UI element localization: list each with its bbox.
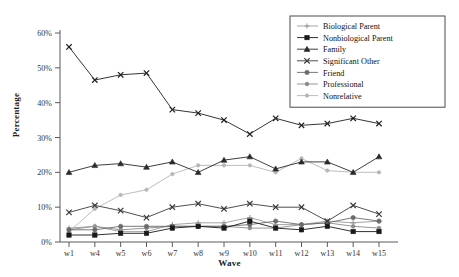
data-point-nonrelative bbox=[222, 164, 226, 168]
data-point-biological-parent bbox=[351, 220, 356, 225]
data-point-nonbiological-parent bbox=[144, 231, 148, 235]
y-tick-label: 60% bbox=[37, 29, 52, 38]
data-point-nonbiological-parent bbox=[67, 233, 71, 237]
x-tick-label: w12 bbox=[295, 249, 309, 258]
data-point-significant-other-top bbox=[221, 117, 226, 122]
legend-label-family[interactable]: Family bbox=[323, 45, 347, 54]
y-tick-label: 30% bbox=[37, 134, 52, 143]
data-point-nonbiological-parent bbox=[196, 224, 200, 228]
y-tick-label: 50% bbox=[37, 64, 52, 73]
data-point-nonrelative bbox=[171, 172, 175, 176]
data-point-significant-other bbox=[350, 203, 355, 208]
line-chart-plot: 0%10%20%30%40%50%60% w1w4w5w6w7w8w9w10w1… bbox=[0, 0, 459, 277]
data-point-nonrelative bbox=[196, 164, 200, 168]
data-point-significant-other bbox=[144, 215, 149, 220]
data-point-nonbiological-parent bbox=[325, 224, 329, 228]
data-point-family bbox=[376, 154, 382, 159]
x-tick-label: w8 bbox=[193, 249, 203, 258]
data-point-friend bbox=[299, 222, 303, 226]
y-tick-label: 0% bbox=[41, 238, 52, 247]
data-point-significant-other bbox=[376, 211, 381, 216]
x-tick-label: w10 bbox=[243, 249, 257, 258]
chart-legend: Biological ParentNonbiological ParentFam… bbox=[290, 16, 445, 107]
legend-label-nonrelative[interactable]: Nonrelative bbox=[323, 92, 362, 101]
data-point-friend bbox=[273, 219, 277, 223]
y-tick-label: 20% bbox=[37, 168, 52, 177]
data-point-nonbiological-parent bbox=[299, 228, 303, 232]
legend-label-significant-other[interactable]: Significant Other bbox=[323, 57, 380, 66]
data-point-significant-other bbox=[66, 210, 71, 215]
data-point-significant-other-top bbox=[66, 44, 71, 49]
data-point-family bbox=[195, 169, 201, 174]
chart-container: Percentage Wave 0%10%20%30%40%50%60% w1w… bbox=[0, 0, 459, 277]
data-point-nonbiological-parent bbox=[93, 233, 97, 237]
y-tick-label: 10% bbox=[37, 203, 52, 212]
legend-label-biological-parent[interactable]: Biological Parent bbox=[323, 22, 381, 31]
data-point-nonbiological-parent bbox=[118, 231, 122, 235]
legend-marker-professional bbox=[305, 82, 309, 86]
x-tick-label: w1 bbox=[64, 249, 74, 258]
data-point-friend bbox=[351, 215, 355, 219]
data-point-family bbox=[169, 159, 175, 164]
data-point-family bbox=[247, 154, 253, 159]
data-point-nonrelative bbox=[93, 207, 97, 211]
data-point-nonrelative bbox=[377, 171, 381, 175]
data-point-friend bbox=[67, 228, 71, 232]
data-point-nonrelative bbox=[145, 188, 149, 192]
x-tick-label: w7 bbox=[167, 249, 177, 258]
x-tick-label: w4 bbox=[90, 249, 100, 258]
legend-label-professional[interactable]: Professional bbox=[323, 80, 364, 89]
x-tick-label: w9 bbox=[219, 249, 229, 258]
legend-label-friend[interactable]: Friend bbox=[323, 69, 344, 78]
data-point-nonbiological-parent bbox=[351, 229, 355, 233]
x-tick-label: w13 bbox=[320, 249, 334, 258]
data-point-nonbiological-parent bbox=[170, 226, 174, 230]
data-point-nonbiological-parent bbox=[273, 226, 277, 230]
data-point-nonbiological-parent bbox=[222, 226, 226, 230]
data-point-friend bbox=[377, 219, 381, 223]
data-point-significant-other-top bbox=[247, 131, 252, 136]
data-point-friend bbox=[93, 228, 97, 232]
data-point-nonbiological-parent bbox=[377, 229, 381, 233]
x-tick-label: w6 bbox=[142, 249, 152, 258]
x-tick-label: w14 bbox=[346, 249, 360, 258]
legend-label-nonbiological-parent[interactable]: Nonbiological Parent bbox=[323, 34, 394, 43]
data-point-friend bbox=[144, 224, 148, 228]
data-point-nonbiological-parent bbox=[248, 219, 252, 223]
y-axis-tick-group: 0%10%20%30%40%50%60% bbox=[37, 29, 60, 247]
x-tick-label: w11 bbox=[269, 249, 282, 258]
data-point-family bbox=[118, 161, 124, 166]
data-point-friend bbox=[118, 224, 122, 228]
x-tick-label: w5 bbox=[116, 249, 126, 258]
x-tick-label: w15 bbox=[372, 249, 386, 258]
legend-marker-nonrelative bbox=[305, 94, 309, 98]
data-point-nonrelative bbox=[326, 169, 330, 173]
legend-marker-friend bbox=[305, 70, 309, 74]
series-line-significant-other bbox=[69, 204, 379, 221]
y-tick-label: 40% bbox=[37, 99, 52, 108]
legend-marker-nonbiological-parent bbox=[305, 35, 309, 39]
x-axis-tick-group: w1w4w5w6w7w8w9w10w11w12w13w14w15 bbox=[64, 242, 386, 258]
data-point-nonrelative bbox=[248, 164, 252, 168]
data-point-nonrelative bbox=[119, 193, 123, 197]
